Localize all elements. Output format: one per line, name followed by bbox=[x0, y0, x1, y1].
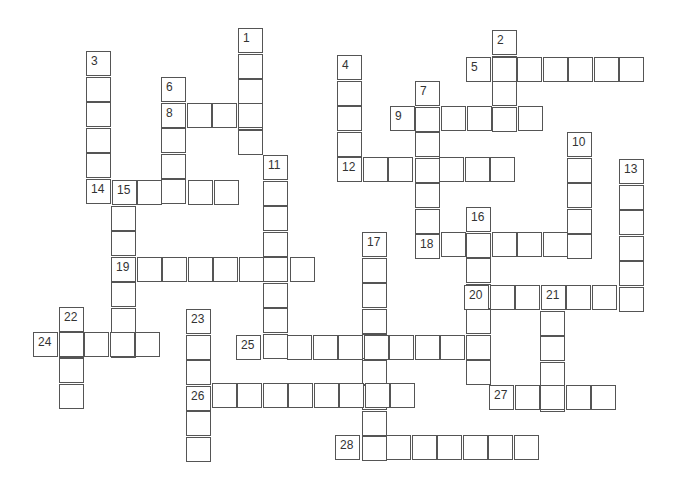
crossword-cell[interactable] bbox=[86, 153, 111, 178]
crossword-cell[interactable] bbox=[592, 285, 617, 310]
crossword-cell[interactable] bbox=[84, 332, 109, 357]
crossword-cell[interactable] bbox=[161, 128, 186, 153]
crossword-cell[interactable]: 14 bbox=[86, 179, 111, 204]
crossword-cell[interactable] bbox=[415, 209, 440, 234]
crossword-cell[interactable] bbox=[137, 180, 162, 205]
crossword-cell[interactable] bbox=[86, 128, 111, 153]
crossword-cell[interactable] bbox=[110, 332, 135, 357]
crossword-cell[interactable] bbox=[364, 335, 389, 360]
crossword-cell[interactable] bbox=[162, 257, 187, 282]
crossword-cell[interactable] bbox=[362, 436, 387, 461]
crossword-cell[interactable] bbox=[594, 57, 619, 82]
crossword-cell[interactable] bbox=[389, 335, 414, 360]
crossword-cell[interactable] bbox=[263, 383, 288, 408]
crossword-cell[interactable] bbox=[492, 81, 517, 106]
crossword-cell[interactable] bbox=[440, 335, 465, 360]
crossword-cell[interactable] bbox=[313, 335, 338, 360]
crossword-cell[interactable] bbox=[339, 383, 364, 408]
crossword-cell[interactable] bbox=[187, 103, 212, 128]
crossword-cell[interactable] bbox=[492, 232, 517, 257]
crossword-cell[interactable] bbox=[390, 383, 415, 408]
crossword-cell[interactable] bbox=[86, 102, 111, 127]
crossword-cell[interactable] bbox=[466, 233, 491, 258]
crossword-cell[interactable] bbox=[362, 309, 387, 334]
crossword-cell[interactable] bbox=[362, 360, 387, 385]
crossword-cell[interactable] bbox=[619, 261, 644, 286]
crossword-cell[interactable] bbox=[188, 257, 213, 282]
crossword-cell[interactable] bbox=[365, 383, 390, 408]
crossword-cell[interactable] bbox=[567, 183, 592, 208]
crossword-cell[interactable] bbox=[86, 77, 111, 102]
crossword-cell[interactable] bbox=[514, 435, 539, 460]
crossword-cell[interactable] bbox=[111, 282, 136, 307]
crossword-cell[interactable]: 15 bbox=[112, 180, 137, 205]
crossword-cell[interactable]: 2 bbox=[492, 30, 517, 55]
crossword-cell[interactable] bbox=[213, 257, 238, 282]
crossword-cell[interactable] bbox=[263, 283, 288, 308]
crossword-cell[interactable]: 3 bbox=[86, 51, 111, 76]
crossword-cell[interactable] bbox=[540, 336, 565, 361]
crossword-cell[interactable] bbox=[186, 335, 211, 360]
crossword-cell[interactable] bbox=[567, 234, 592, 259]
crossword-cell[interactable] bbox=[263, 232, 288, 257]
crossword-cell[interactable] bbox=[59, 384, 84, 409]
crossword-cell[interactable] bbox=[490, 285, 515, 310]
crossword-cell[interactable] bbox=[111, 206, 136, 231]
crossword-cell[interactable] bbox=[517, 57, 542, 82]
crossword-cell[interactable]: 25 bbox=[236, 335, 261, 360]
crossword-cell[interactable] bbox=[161, 179, 186, 204]
crossword-cell[interactable] bbox=[338, 335, 363, 360]
crossword-cell[interactable] bbox=[415, 183, 440, 208]
crossword-cell[interactable]: 20 bbox=[464, 285, 489, 310]
crossword-cell[interactable] bbox=[135, 332, 160, 357]
crossword-cell[interactable] bbox=[437, 435, 462, 460]
crossword-cell[interactable]: 18 bbox=[415, 234, 440, 259]
crossword-cell[interactable] bbox=[362, 283, 387, 308]
crossword-cell[interactable]: 23 bbox=[186, 309, 211, 334]
crossword-cell[interactable] bbox=[238, 54, 263, 79]
crossword-cell[interactable]: 9 bbox=[390, 106, 415, 131]
crossword-cell[interactable] bbox=[263, 206, 288, 231]
crossword-cell[interactable] bbox=[591, 385, 616, 410]
crossword-cell[interactable]: 27 bbox=[489, 385, 514, 410]
crossword-cell[interactable] bbox=[466, 309, 491, 334]
crossword-cell[interactable] bbox=[492, 107, 517, 132]
crossword-cell[interactable] bbox=[466, 258, 491, 283]
crossword-cell[interactable] bbox=[263, 181, 288, 206]
crossword-cell[interactable] bbox=[415, 107, 440, 132]
crossword-cell[interactable] bbox=[543, 232, 568, 257]
crossword-cell[interactable]: 5 bbox=[466, 57, 491, 82]
crossword-cell[interactable] bbox=[188, 180, 213, 205]
crossword-cell[interactable] bbox=[137, 257, 162, 282]
crossword-cell[interactable] bbox=[415, 335, 440, 360]
crossword-cell[interactable] bbox=[111, 231, 136, 256]
crossword-cell[interactable]: 24 bbox=[33, 332, 58, 357]
crossword-cell[interactable]: 19 bbox=[111, 257, 136, 282]
crossword-cell[interactable] bbox=[517, 232, 542, 257]
crossword-cell[interactable] bbox=[214, 180, 239, 205]
crossword-cell[interactable] bbox=[619, 236, 644, 261]
crossword-cell[interactable] bbox=[314, 383, 339, 408]
crossword-cell[interactable] bbox=[518, 106, 543, 131]
crossword-cell[interactable]: 12 bbox=[337, 157, 362, 182]
crossword-cell[interactable] bbox=[540, 385, 565, 410]
crossword-cell[interactable] bbox=[388, 157, 413, 182]
crossword-cell[interactable] bbox=[515, 385, 540, 410]
crossword-cell[interactable] bbox=[362, 258, 387, 283]
crossword-cell[interactable] bbox=[212, 383, 237, 408]
crossword-cell[interactable] bbox=[238, 79, 263, 104]
crossword-cell[interactable] bbox=[111, 308, 136, 333]
crossword-cell[interactable]: 1 bbox=[238, 28, 263, 53]
crossword-cell[interactable] bbox=[59, 358, 84, 383]
crossword-cell[interactable] bbox=[186, 437, 211, 462]
crossword-cell[interactable]: 17 bbox=[362, 232, 387, 257]
crossword-cell[interactable] bbox=[239, 257, 264, 282]
crossword-cell[interactable]: 22 bbox=[59, 307, 84, 332]
crossword-cell[interactable] bbox=[287, 335, 312, 360]
crossword-cell[interactable] bbox=[386, 435, 411, 460]
crossword-cell[interactable] bbox=[540, 311, 565, 336]
crossword-cell[interactable] bbox=[568, 57, 593, 82]
crossword-cell[interactable] bbox=[238, 130, 263, 155]
crossword-cell[interactable]: 13 bbox=[619, 159, 644, 184]
crossword-cell[interactable] bbox=[490, 157, 515, 182]
